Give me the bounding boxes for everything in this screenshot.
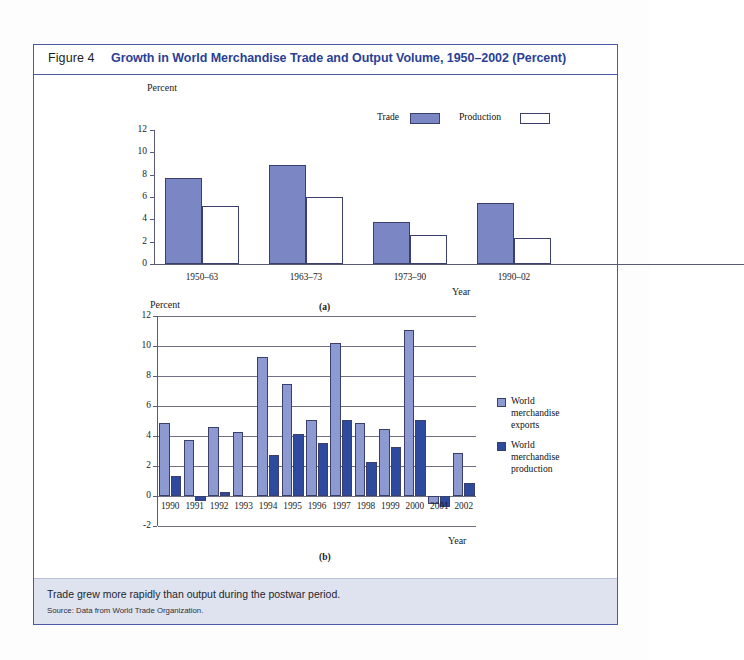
panel-b-gridline: [158, 316, 476, 317]
bar-production-2002: [464, 483, 475, 497]
panel-a-tickmark: [150, 152, 154, 153]
panel-a-tickmark: [150, 130, 154, 131]
panel-b-ytick: -2: [129, 520, 151, 530]
panel-b-label: (b): [319, 552, 331, 562]
panel-a-xtick-1963–73: 1963–73: [257, 272, 355, 282]
bar-trade-1950–63: [165, 178, 202, 264]
bar-exports-1992: [208, 427, 219, 496]
legend-label-exports: merchandise: [511, 407, 559, 418]
bar-exports-1997: [330, 343, 341, 496]
panel-a-xtick-1950–63: 1950–63: [153, 272, 251, 282]
panel-b-xtick-2002: 2002: [449, 501, 479, 511]
bar-exports-1995: [282, 384, 293, 497]
legend-swatch-trade: [410, 113, 440, 124]
panel-b-gridline: [158, 376, 476, 377]
legend-label-production: World: [511, 439, 535, 450]
bar-production-1995: [293, 434, 304, 496]
panel-b-ytick: 0: [129, 490, 151, 500]
figure-source: Source: Data from World Trade Organizati…: [47, 606, 203, 615]
panel-a-xlabel: Year: [452, 286, 470, 297]
panel-a-ytick: 4: [125, 213, 147, 223]
panel-a-ytick: 2: [125, 236, 147, 246]
bar-production-1990: [171, 476, 182, 496]
bar-production-1973–90: [410, 235, 447, 264]
bar-production-1998: [366, 462, 377, 496]
bar-production-1997: [342, 420, 353, 497]
chart-panel-a: Percent0246810121950–631963–731973–90199…: [34, 75, 617, 295]
panel-a-ytick: 12: [125, 124, 147, 134]
panel-b-ytick: 10: [129, 340, 151, 350]
bar-exports-1994: [257, 357, 268, 496]
chart-panel-b: Percent-20246810121990199119921993199419…: [34, 307, 617, 577]
bar-exports-1990: [159, 423, 170, 497]
legend-label-exports: World: [511, 395, 535, 406]
panel-b-gridline: [158, 526, 476, 527]
panel-a-yaxis: [154, 130, 155, 265]
legend-label-production: production: [511, 463, 553, 474]
legend-label-exports: exports: [511, 419, 539, 430]
panel-a-tickmark: [150, 197, 154, 198]
panel-b-yaxis: [157, 316, 158, 526]
bar-production-1992: [220, 492, 231, 496]
panel-b-ytick: 6: [129, 400, 151, 410]
panel-b-ylabel: Percent: [150, 299, 180, 310]
panel-b-ytick: 8: [129, 370, 151, 380]
legend-label-production: merchandise: [511, 451, 559, 462]
bar-production-1996: [318, 443, 329, 496]
bar-exports-1991: [184, 440, 195, 496]
figure-footer: Trade grew more rapidly than output duri…: [34, 578, 617, 624]
panel-a-ytick: 10: [125, 146, 147, 156]
panel-b-ytick: 12: [129, 310, 151, 320]
figure-caption: Trade grew more rapidly than output duri…: [47, 588, 340, 600]
panel-b-gridline: [158, 346, 476, 347]
figure-container: Figure 4 Growth in World Merchandise Tra…: [33, 44, 618, 625]
figure-body: Percent0246810121950–631963–731973–90199…: [34, 75, 617, 580]
bar-trade-1990–02: [477, 203, 514, 264]
panel-a-ylabel: Percent: [147, 82, 177, 93]
bar-exports-1999: [379, 429, 390, 497]
panel-a-ytick: 6: [125, 191, 147, 201]
bar-exports-2002: [453, 453, 464, 497]
legend-label-production: Production: [459, 111, 501, 122]
bar-production-1950–63: [202, 206, 239, 264]
figure-header: Figure 4 Growth in World Merchandise Tra…: [34, 45, 617, 75]
panel-a-tickmark: [150, 219, 154, 220]
panel-a-tickmark: [150, 242, 154, 243]
bar-exports-2000: [404, 330, 415, 497]
bar-production-1994: [269, 455, 280, 496]
bar-production-1990–02: [514, 238, 551, 264]
bar-exports-1993: [233, 432, 244, 496]
panel-b-gridline: [158, 436, 476, 437]
panel-a-tickmark: [150, 264, 154, 265]
legend-swatch-production: [520, 113, 550, 124]
panel-b-ytick: 2: [129, 460, 151, 470]
panel-a-xtick-1973–90: 1973–90: [361, 272, 459, 282]
legend-label-trade: Trade: [377, 111, 399, 122]
panel-b-gridline: [158, 406, 476, 407]
bar-production-1999: [391, 447, 402, 497]
figure-number: Figure 4: [48, 51, 95, 65]
panel-a-xaxis: [154, 264, 744, 265]
panel-b-ytick: 4: [129, 430, 151, 440]
figure-title: Growth in World Merchandise Trade and Ou…: [111, 51, 566, 65]
panel-a-ytick: 8: [125, 169, 147, 179]
panel-a-xtick-1990–02: 1990–02: [465, 272, 563, 282]
legend-swatch-exports: [497, 398, 506, 407]
legend-swatch-production: [497, 442, 506, 451]
panel-a-tickmark: [150, 175, 154, 176]
panel-a-ytick: 0: [125, 258, 147, 268]
panel-b-xlabel: Year: [448, 535, 466, 546]
bar-exports-1996: [306, 420, 317, 497]
bar-exports-1998: [355, 423, 366, 496]
panel-b-tickmark: [153, 526, 157, 527]
bar-production-2000: [415, 420, 426, 497]
bar-trade-1973–90: [373, 222, 410, 264]
bar-trade-1963–73: [269, 165, 306, 264]
bar-production-1963–73: [306, 197, 343, 264]
